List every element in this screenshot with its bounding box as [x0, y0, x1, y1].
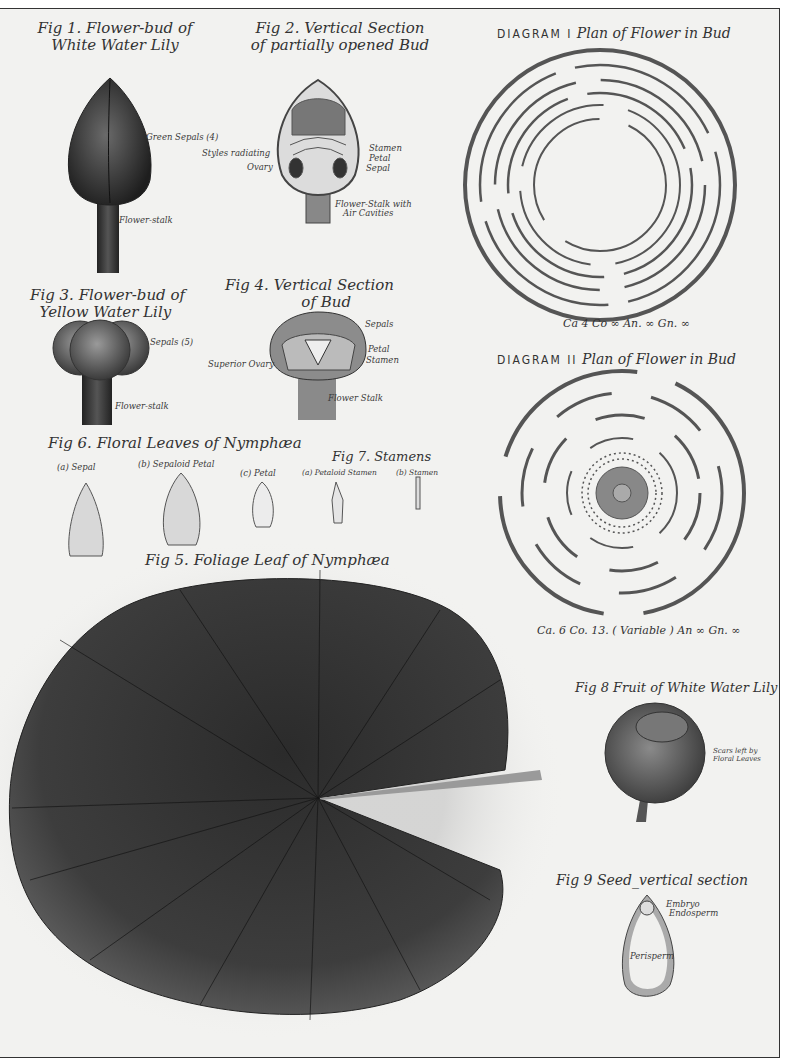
- diagram2-title: DIAGRAM II Plan of Flower in Bud: [497, 352, 736, 367]
- fig2-label-styles: Styles radiating: [202, 149, 270, 158]
- fig2-label-stamen: Stamen: [369, 144, 402, 153]
- fig4-section-drawing: [270, 312, 366, 420]
- fig4-label-sepals: Sepals: [365, 320, 393, 329]
- diagram1-drawing: [465, 50, 735, 320]
- fig9-label-perisperm: Perisperm: [630, 952, 674, 961]
- fig9-seed-drawing: [622, 895, 673, 996]
- fig4-label-ovary: Superior Ovary: [208, 360, 274, 369]
- fig8-fruit-drawing: [605, 703, 705, 822]
- fig5-leaf-drawing: [0, 540, 565, 1040]
- fig2-label-ovary: Ovary: [247, 163, 273, 172]
- fig8-title: Fig 8 Fruit of White Water Lily: [575, 681, 777, 695]
- fig6-title: Fig 6. Floral Leaves of Nymphæa: [48, 435, 302, 452]
- fig1-label-stalk: Flower-stalk: [119, 216, 173, 225]
- fig7-label-petaloid-stamen: (a) Petaloid Stamen: [302, 469, 377, 477]
- diagram2-drawing: [500, 371, 744, 615]
- fig1-bud-drawing: [68, 78, 151, 273]
- fig2-title: Fig 2. Vertical Sectionof partially open…: [240, 20, 440, 53]
- diagram2-formula: Ca. 6 Co. 13. ( Variable ) An ∞ Gn. ∞: [537, 625, 740, 637]
- fig9-label-endosperm: Endosperm: [669, 909, 718, 918]
- fig3-label-stalk: Flower-stalk: [115, 402, 169, 411]
- fig4-label-stalk: Flower Stalk: [328, 394, 383, 403]
- fig4-title: Fig 4. Vertical Section of Bud: [225, 277, 394, 310]
- fig4-label-petal: Petal: [368, 345, 390, 354]
- fig3-label-sepals: Sepals (5): [150, 338, 193, 347]
- diagram1-title: DIAGRAM I Plan of Flower in Bud: [497, 26, 731, 41]
- fig6-label-sepaloid-petal: (b) Sepaloid Petal: [138, 460, 214, 469]
- diagram1-formula: Ca 4 Co ∞ An. ∞ Gn. ∞: [563, 318, 690, 330]
- fig7-label-stamen: (b) Stamen: [396, 469, 438, 477]
- fig2-label-stalk: Flower-Stalk with Air Cavities: [335, 200, 412, 219]
- fig6-label-sepal: (a) Sepal: [57, 463, 95, 472]
- fig3-title: Fig 3. Flower-bud of Yellow Water Lily: [30, 287, 185, 320]
- fig5-title: Fig 5. Foliage Leaf of Nymphæa: [145, 552, 390, 569]
- fig2-label-petal: Petal: [369, 154, 391, 163]
- fig8-label-scars: Scars left byFloral Leaves: [713, 748, 761, 763]
- fig6-label-petal: (c) Petal: [240, 469, 276, 478]
- fig7-title: Fig 7. Stamens: [332, 450, 431, 464]
- fig1-label-sepals: Green Sepals (4): [146, 133, 218, 142]
- fig4-label-stamen: Stamen: [366, 356, 399, 365]
- fig9-title: Fig 9 Seed_vertical section: [556, 873, 748, 888]
- fig1-title: Fig 1. Flower-bud ofWhite Water Lily: [20, 20, 210, 53]
- fig2-label-sepal: Sepal: [366, 164, 390, 173]
